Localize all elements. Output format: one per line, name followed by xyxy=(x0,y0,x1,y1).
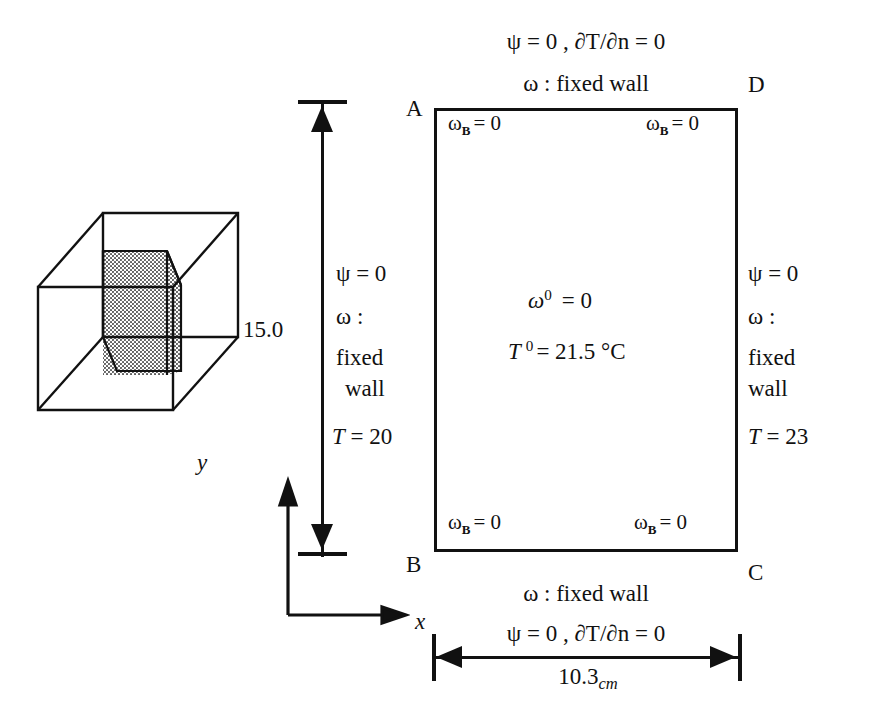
width-dimension-label: 10.3cm xyxy=(552,665,624,692)
coordinate-axes xyxy=(240,455,410,645)
corner-vorticity-top-left: ωB= 0 xyxy=(448,113,501,137)
omega-value: = 0 xyxy=(660,510,688,534)
omega-superscript: 0 xyxy=(544,286,552,303)
corner-label-c: C xyxy=(748,561,763,584)
height-dimension-down-arrow xyxy=(311,524,333,550)
temperature-symbol: T xyxy=(508,339,521,364)
left-boundary-fixed: fixed xyxy=(336,346,383,369)
x-axis-label: x xyxy=(415,610,425,633)
width-dimension-left-arrow xyxy=(436,646,462,668)
width-dimension-unit: cm xyxy=(598,674,617,693)
bottom-boundary-condition-line2: ψ = 0 , ∂T/∂n = 0 xyxy=(507,622,665,645)
left-boundary-wall: wall xyxy=(345,377,385,400)
omega-subscript: B xyxy=(462,522,471,537)
left-boundary-omega: ω : xyxy=(336,305,363,328)
omega-value: = 0 xyxy=(474,111,502,135)
width-dimension-right-tick xyxy=(738,634,742,681)
left-boundary-temperature: T = 20 xyxy=(332,425,392,448)
y-axis-arrowhead xyxy=(280,481,296,505)
omega-symbol: ω xyxy=(646,111,660,135)
omega-initial-value: = 0 xyxy=(562,288,592,313)
height-dimension-label: 15.0 xyxy=(243,318,283,341)
omega-symbol: ω xyxy=(528,288,544,313)
temperature-superscript: 0 xyxy=(526,337,534,354)
cavity-cross-section-rectangle xyxy=(434,108,738,552)
corner-vorticity-bottom-right: ωB= 0 xyxy=(634,512,687,536)
right-boundary-omega: ω : xyxy=(748,305,775,328)
width-dimension-value: 10.3 xyxy=(558,664,598,689)
right-boundary-psi: ψ = 0 xyxy=(748,262,798,285)
y-axis-label: y xyxy=(197,451,207,474)
x-axis-arrowhead xyxy=(382,607,406,623)
omega-subscript: B xyxy=(462,123,471,138)
omega-symbol: ω xyxy=(634,510,648,534)
interior-initial-vorticity: ω0= 0 xyxy=(528,287,592,312)
right-boundary-wall: wall xyxy=(748,377,788,400)
corner-label-d: D xyxy=(748,73,765,96)
omega-value: = 0 xyxy=(672,111,700,135)
temperature-initial-value: = 21.5 °C xyxy=(536,339,625,364)
enclosure-3d-illustration xyxy=(28,175,268,425)
top-boundary-condition-line2: ω : fixed wall xyxy=(523,72,649,95)
omega-value: = 0 xyxy=(474,510,502,534)
height-dimension-bottom-tick xyxy=(298,552,347,556)
height-dimension-line xyxy=(321,102,324,557)
left-boundary-psi: ψ = 0 xyxy=(336,262,386,285)
width-dimension-right-arrow xyxy=(710,646,736,668)
omega-subscript: B xyxy=(648,522,657,537)
bottom-boundary-condition-line1: ω : fixed wall xyxy=(523,582,649,605)
top-boundary-condition-line1: ψ = 0 , ∂T/∂n = 0 xyxy=(507,30,665,53)
right-boundary-temperature: T = 23 xyxy=(748,425,808,448)
omega-symbol: ω xyxy=(448,510,462,534)
omega-symbol: ω xyxy=(448,111,462,135)
width-dimension-line xyxy=(432,656,740,659)
corner-label-b: B xyxy=(406,553,421,576)
height-dimension-up-arrow xyxy=(311,106,333,132)
right-boundary-fixed: fixed xyxy=(748,346,795,369)
corner-vorticity-bottom-left: ωB= 0 xyxy=(448,512,501,536)
interior-initial-temperature: T0= 21.5 °C xyxy=(508,338,626,363)
omega-subscript: B xyxy=(660,123,669,138)
cross-section-plane xyxy=(103,251,181,375)
corner-label-a: A xyxy=(406,97,423,120)
corner-vorticity-top-right: ωB= 0 xyxy=(646,113,699,137)
figure-canvas: y x 15.0 10.3cm ψ = 0 , ∂T/∂n = 0 ω : fi… xyxy=(0,0,870,727)
